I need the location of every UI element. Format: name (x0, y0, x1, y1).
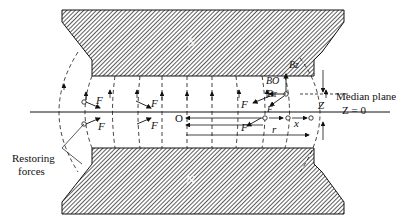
cyclotron-magnetic-field-diagram: S N (0, 0, 412, 224)
radius-label: r (272, 123, 277, 135)
displacement-label: x (293, 117, 299, 129)
vertical-offset-label: Z (318, 99, 325, 111)
particle-orbits (82, 92, 313, 126)
origin-label: O (175, 112, 183, 124)
bz-label: Bz (289, 59, 299, 70)
south-pole-label: S (188, 34, 195, 49)
restoring-forces-label-line1: Restoring (12, 152, 55, 164)
south-pole-piece: S (62, 10, 344, 76)
force-label-3: F (150, 97, 158, 109)
bo-label: BO (266, 75, 279, 86)
force-label-4: F (150, 119, 158, 131)
median-plane-label: Median plane (336, 90, 396, 102)
z-zero-label: Z = 0 (342, 104, 366, 116)
radius-dimension-arrows (186, 70, 323, 140)
restoring-forces-label-line2: forces (18, 165, 45, 177)
force-label-6: F (266, 104, 273, 114)
force-label-5: F (240, 98, 248, 110)
force-label-1: F (95, 94, 103, 106)
restoring-forces-leaders (62, 124, 84, 164)
north-pole-piece: N (62, 148, 344, 214)
north-pole-label: N (186, 172, 196, 187)
force-label-7: F (240, 121, 248, 133)
br-label: Br (267, 88, 278, 99)
force-label-2: F (97, 120, 105, 132)
